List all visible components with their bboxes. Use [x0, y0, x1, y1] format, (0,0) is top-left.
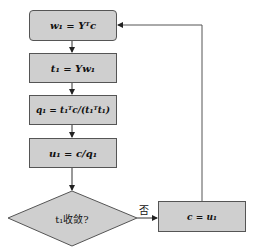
node-compute-w1-label: w₁ = Yᵀc	[50, 20, 96, 31]
node-compute-t1: t₁ = Yw₁	[29, 53, 117, 83]
node-compute-q1-label: q₁ = t₁ᵀc/(t₁ᵀt₁)	[36, 105, 110, 115]
node-update-c: c = u₁	[158, 201, 246, 232]
node-update-c-label: c = u₁	[187, 212, 217, 222]
decision-label: t₁收敛?	[30, 210, 114, 226]
edge-label-no: 否	[139, 202, 149, 217]
node-compute-q1: q₁ = t₁ᵀc/(t₁ᵀt₁)	[29, 95, 117, 125]
node-compute-w1: w₁ = Yᵀc	[29, 10, 117, 41]
node-compute-t1-label: t₁ = Yw₁	[51, 63, 95, 74]
decision-label-text: t₁收敛?	[55, 211, 88, 226]
node-compute-u1-label: u₁ = c/q₁	[49, 148, 97, 159]
edge-step5-step1	[118, 25, 202, 201]
node-compute-u1: u₁ = c/q₁	[29, 138, 117, 168]
